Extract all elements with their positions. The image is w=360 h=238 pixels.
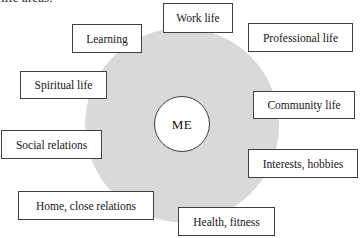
me-circle: ME <box>154 96 210 152</box>
life-area-box-social-relations[interactable]: Social relations <box>1 130 102 159</box>
life-area-box-spiritual-life[interactable]: Spiritual life <box>20 71 107 99</box>
life-area-box-home-close-relations[interactable]: Home, close relations <box>18 191 154 220</box>
life-area-label: Learning <box>86 33 128 45</box>
me-label: ME <box>172 118 192 131</box>
life-area-label: Health, fitness <box>193 216 259 228</box>
life-area-label: Professional life <box>263 32 338 44</box>
life-area-label: Work life <box>176 12 219 24</box>
life-area-box-interests-hobbies[interactable]: Interests, hobbies <box>248 149 358 178</box>
life-area-label: Home, close relations <box>36 200 136 212</box>
life-area-label: Social relations <box>16 139 87 151</box>
caption-text-fragment: life areas. <box>1 0 53 5</box>
life-area-box-community-life[interactable]: Community life <box>253 91 355 119</box>
life-area-label: Interests, hobbies <box>263 158 343 170</box>
life-area-box-health-fitness[interactable]: Health, fitness <box>178 207 275 236</box>
life-area-label: Spiritual life <box>35 79 93 91</box>
life-area-label: Community life <box>267 99 340 111</box>
life-area-box-learning[interactable]: Learning <box>72 24 142 53</box>
life-areas-diagram: life areas. ME Work life Learning Profes… <box>0 0 360 238</box>
life-area-box-professional-life[interactable]: Professional life <box>248 23 353 52</box>
life-area-box-work-life[interactable]: Work life <box>163 3 233 33</box>
